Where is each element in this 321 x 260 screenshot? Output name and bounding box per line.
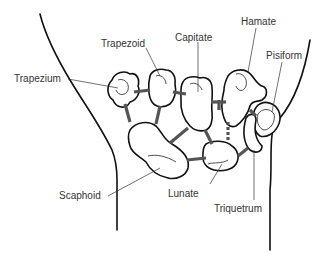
pisiform-bone — [253, 102, 280, 136]
scaphoid-label: Scaphoid — [59, 191, 101, 201]
triquetrum-label: Triquetrum — [214, 204, 262, 214]
hamate-leader — [248, 28, 256, 72]
trapezium-bone — [108, 72, 139, 107]
pisiform-leader — [272, 62, 282, 112]
pisiform-label: Pisiform — [266, 51, 302, 61]
wrist-illustration — [0, 0, 321, 260]
scaphoid-leader — [108, 168, 160, 196]
wrist-outline-right — [270, 40, 310, 250]
trapezoid-bone — [149, 69, 176, 107]
trapezium-label: Trapezium — [14, 74, 61, 84]
lunate-label: Lunate — [168, 189, 199, 199]
capitate-label: Capitate — [175, 33, 212, 43]
carpal-bones-diagram: Trapezium Trapezoid Capitate Hamate Pisi… — [0, 0, 321, 260]
trapezoid-label: Trapezoid — [101, 39, 145, 49]
capitate-bone — [181, 77, 212, 131]
hamate-label: Hamate — [241, 17, 276, 27]
scaphoid-bone — [129, 123, 189, 179]
